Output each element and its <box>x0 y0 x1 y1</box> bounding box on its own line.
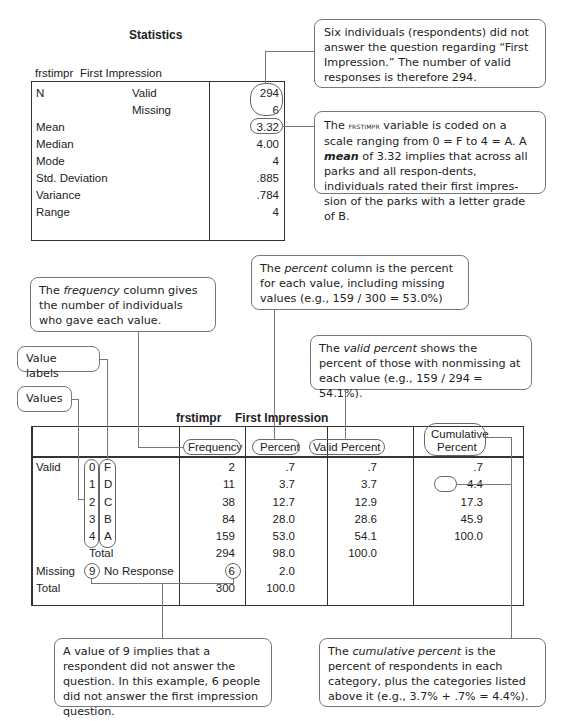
connector <box>283 126 315 127</box>
stats-row-label: Median <box>36 138 74 150</box>
row-frequency: 84 <box>222 513 235 525</box>
statistics-title: Statistics <box>129 28 182 42</box>
callout-mean: The frstimpr variable is coded on a scal… <box>314 111 546 194</box>
stats-variable-name: frstimpr <box>35 67 73 79</box>
row-frequency: 38 <box>222 496 235 508</box>
row-frequency: 294 <box>216 547 235 559</box>
callout-value-labels: Value labels <box>17 346 100 372</box>
stats-variable-label: First Impression <box>80 67 162 79</box>
stats-row-label: Std. Deviation <box>36 172 108 184</box>
row-valid-percent: .7 <box>367 461 377 473</box>
connector <box>486 437 511 438</box>
row-valid-percent: 3.7 <box>361 478 377 490</box>
cumulative-value-highlight <box>434 476 457 492</box>
callout-values: Values <box>17 386 72 412</box>
connector <box>138 447 184 448</box>
variable-name-smallcaps: frstimpr <box>348 121 379 131</box>
row-valid-percent: 54.1 <box>355 530 377 542</box>
frequency-header-highlight <box>183 439 241 455</box>
percent-header-highlight <box>252 439 300 455</box>
row-percent: 12.7 <box>273 496 295 508</box>
row-group-total: Total <box>36 582 60 594</box>
connector <box>78 499 85 500</box>
connector <box>511 437 512 640</box>
connector <box>233 579 234 584</box>
stats-row-sub: Missing <box>132 104 171 116</box>
row-label-total: Total <box>89 547 113 559</box>
missing-value-highlight <box>84 563 100 579</box>
row-cumulative: .7 <box>473 461 483 473</box>
row-group-valid: Valid <box>36 461 61 473</box>
row-percent: 2.0 <box>279 565 295 577</box>
row-percent: 28.0 <box>273 513 295 525</box>
connector <box>78 399 79 499</box>
row-group-missing: Missing <box>36 565 75 577</box>
stats-row-label: Mode <box>36 155 65 167</box>
row-percent: 98.0 <box>273 547 295 559</box>
row-frequency: 11 <box>223 478 235 490</box>
row-label: No Response <box>104 565 174 577</box>
connector <box>162 583 163 639</box>
connector <box>274 310 275 439</box>
connector <box>265 51 266 84</box>
row-percent: 53.0 <box>273 530 295 542</box>
row-cumulative: 17.3 <box>461 496 483 508</box>
row-percent: .7 <box>285 461 295 473</box>
labels-column-highlight <box>99 459 116 548</box>
stats-row-label: Variance <box>36 189 81 201</box>
callout-cumulative-percent: The cumulative percent is the percent of… <box>319 638 546 707</box>
callout-frequency: The frequency column gives the number of… <box>30 277 216 332</box>
callout-valid-percent: The valid percent shows the percent of t… <box>310 335 532 390</box>
row-cumulative: 45.9 <box>461 513 483 525</box>
callout-percent: The percent column is the percent for ea… <box>251 255 469 310</box>
statistics-table: N Valid 294 Missing 6 Mean 3.32 Median 4… <box>31 81 285 241</box>
stats-value-std-deviation: .885 <box>257 172 279 184</box>
n-values-highlight <box>250 83 283 116</box>
mean-highlight <box>250 118 283 134</box>
stats-row-label: Mean <box>36 121 65 133</box>
connector <box>345 390 346 439</box>
freq-variable-name: frstimpr <box>176 411 221 425</box>
connector <box>107 359 108 460</box>
row-frequency: 2 <box>229 461 235 473</box>
row-frequency: 159 <box>216 530 235 542</box>
row-valid-percent: 100.0 <box>348 547 377 559</box>
freq-variable-label: First Impression <box>235 411 328 425</box>
stats-value-range: 4 <box>273 206 279 218</box>
cumulative-header-highlight <box>424 423 486 456</box>
stats-value-median: 4.00 <box>257 138 279 150</box>
row-percent: 3.7 <box>279 478 295 490</box>
stats-row-label: Range <box>36 206 70 218</box>
stats-value-mode: 4 <box>273 155 279 167</box>
connector <box>138 332 139 447</box>
missing-frequency-highlight <box>225 563 241 579</box>
stats-row-sub: Valid <box>132 87 157 99</box>
row-percent: 100.0 <box>266 582 295 594</box>
callout-missing-value: A value of 9 implies that a respondent d… <box>54 638 272 707</box>
connector <box>457 484 511 485</box>
stats-value-variance: .784 <box>257 189 279 201</box>
stats-row-label: N <box>36 87 44 99</box>
row-valid-percent: 28.6 <box>355 513 377 525</box>
row-cumulative: 100.0 <box>454 530 483 542</box>
valid-percent-header-highlight <box>309 439 385 455</box>
values-column-highlight <box>84 459 99 548</box>
callout-missing-responses: Six individuals (respondents) did not an… <box>314 19 546 88</box>
connector <box>265 51 315 52</box>
row-valid-percent: 12.9 <box>355 496 377 508</box>
